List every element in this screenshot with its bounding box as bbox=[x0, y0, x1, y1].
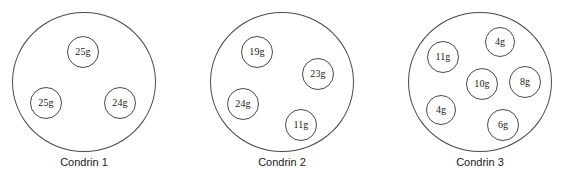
condrin-label: Condrin 3 bbox=[456, 156, 504, 168]
mass-circle: 6g bbox=[487, 109, 519, 141]
mass-circle: 4g bbox=[426, 95, 456, 125]
condrin-label-wrap: Condrin 3 bbox=[456, 152, 504, 170]
mass-circle: 11g bbox=[427, 41, 459, 73]
figure-canvas: 25g25g24gCondrin 119g23g24g11gCondrin 21… bbox=[0, 0, 567, 189]
condrin-group-3: 11g4g10g8g4g6gCondrin 3 bbox=[0, 0, 567, 189]
mass-circle: 4g bbox=[485, 27, 515, 57]
mass-circle: 8g bbox=[509, 66, 541, 98]
mass-circle: 10g bbox=[466, 68, 498, 100]
